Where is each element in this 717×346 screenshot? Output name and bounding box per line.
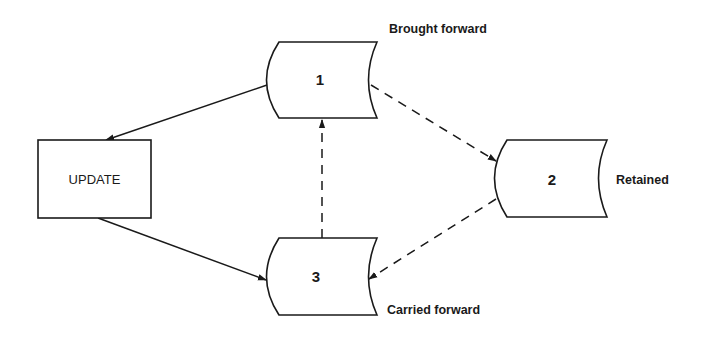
process-update: UPDATE: [38, 140, 151, 218]
file-3-caption: Carried forward: [387, 303, 480, 317]
file-3-number: 3: [312, 268, 320, 285]
edge-f2-to-f3: [369, 199, 496, 279]
file-1-number: 1: [316, 71, 324, 88]
file-3: 3 Carried forward: [267, 238, 481, 317]
process-label: UPDATE: [69, 172, 121, 187]
file-2: 2 Retained: [495, 140, 669, 217]
file-1-caption: Brought forward: [389, 22, 487, 36]
file-2-number: 2: [548, 171, 556, 188]
file-1: 1 Brought forward: [267, 22, 487, 118]
file-3-shape: [267, 238, 378, 315]
edge-f1-to-update: [106, 85, 267, 140]
file-flow-diagram: UPDATE 1 Brought forward 2 Retained 3 Ca…: [0, 0, 717, 346]
edge-update-to-f3: [98, 218, 266, 280]
file-2-caption: Retained: [616, 173, 669, 187]
edge-f1-to-f2: [371, 85, 496, 161]
